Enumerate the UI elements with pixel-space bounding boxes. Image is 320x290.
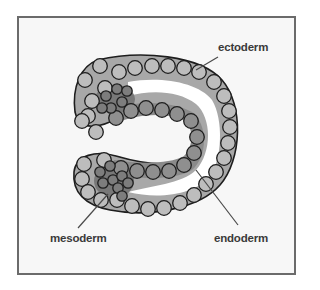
cell — [93, 59, 108, 74]
cell — [89, 125, 104, 140]
cell — [187, 146, 202, 161]
cell — [105, 161, 115, 171]
cell — [125, 199, 140, 214]
cell — [221, 136, 236, 151]
cell — [145, 59, 160, 74]
cell — [101, 91, 111, 101]
ectoderm-label: ectoderm — [218, 41, 268, 53]
cell — [128, 61, 143, 76]
cell — [130, 164, 145, 179]
cell — [141, 202, 156, 217]
cell — [77, 157, 92, 172]
cell — [217, 151, 232, 166]
cell — [139, 101, 154, 116]
cell — [177, 158, 192, 173]
cell — [98, 178, 108, 188]
cell — [112, 65, 127, 80]
cell — [190, 130, 205, 145]
cell — [192, 65, 207, 80]
cell — [112, 84, 122, 94]
cell — [81, 185, 96, 200]
cell — [122, 86, 132, 96]
cell — [217, 89, 232, 104]
cell — [117, 191, 127, 201]
cell — [184, 114, 199, 129]
cell — [157, 201, 172, 216]
cell — [75, 114, 90, 129]
cell — [223, 120, 238, 135]
mesoderm-label: mesoderm — [50, 232, 107, 244]
cell — [78, 73, 93, 88]
cell — [161, 59, 176, 74]
cell — [187, 188, 202, 203]
cell — [123, 178, 133, 188]
cell — [207, 75, 222, 90]
cell — [173, 196, 188, 211]
cell — [222, 104, 237, 119]
cell — [94, 193, 109, 208]
endoderm-label: endoderm — [214, 232, 268, 244]
cell — [117, 97, 127, 107]
cell — [95, 167, 105, 177]
cell — [146, 165, 161, 180]
cell — [97, 103, 107, 113]
cell — [170, 107, 185, 122]
cell — [209, 165, 224, 180]
cell — [162, 164, 177, 179]
cell — [155, 103, 170, 118]
cell — [177, 61, 192, 76]
